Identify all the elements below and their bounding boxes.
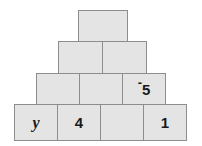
number-pyramid-figure: -5 y 4 1 bbox=[0, 0, 202, 146]
block-label-variable-y: y bbox=[32, 115, 39, 131]
block-label-negative-five: -5 bbox=[138, 82, 151, 97]
block-label-four: 4 bbox=[75, 115, 83, 130]
pyramid-block-r4c4[interactable]: 1 bbox=[143, 104, 187, 141]
pyramid-block-r4c3[interactable] bbox=[100, 104, 144, 141]
pyramid-row-1 bbox=[78, 10, 128, 42]
pyramid-row-2 bbox=[58, 41, 147, 74]
pyramid-block-r4c2[interactable]: 4 bbox=[57, 104, 101, 141]
pyramid-block-r2c2[interactable] bbox=[102, 41, 147, 74]
pyramid-block-r3c1[interactable] bbox=[36, 73, 80, 105]
pyramid-row-4: y 4 1 bbox=[14, 104, 187, 141]
block-label-one: 1 bbox=[161, 115, 169, 130]
pyramid-block-r4c1[interactable]: y bbox=[14, 104, 58, 141]
pyramid-block-r1c1[interactable] bbox=[78, 10, 128, 42]
pyramid-block-r2c1[interactable] bbox=[58, 41, 103, 74]
pyramid-block-r3c3[interactable]: -5 bbox=[122, 73, 166, 105]
pyramid-block-r3c2[interactable] bbox=[79, 73, 123, 105]
pyramid-row-3: -5 bbox=[36, 73, 166, 105]
negative-magnitude: 5 bbox=[142, 81, 150, 98]
